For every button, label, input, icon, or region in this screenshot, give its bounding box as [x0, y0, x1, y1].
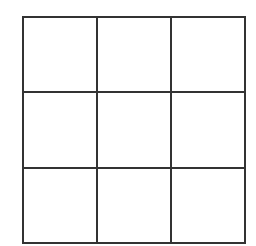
three-by-three-grid [22, 16, 246, 244]
grid-cell-r2-c3 [171, 92, 245, 167]
grid-cell-r1-c3 [171, 17, 245, 92]
grid-cell-r3-c3 [171, 168, 245, 243]
grid-cell-r3-c2 [97, 168, 171, 243]
grid-cell-r1-c2 [97, 17, 171, 92]
grid-cell-r3-c1 [23, 168, 97, 243]
grid-cell-r1-c1 [23, 17, 97, 92]
grid-cell-r2-c1 [23, 92, 97, 167]
grid-cell-r2-c2 [97, 92, 171, 167]
